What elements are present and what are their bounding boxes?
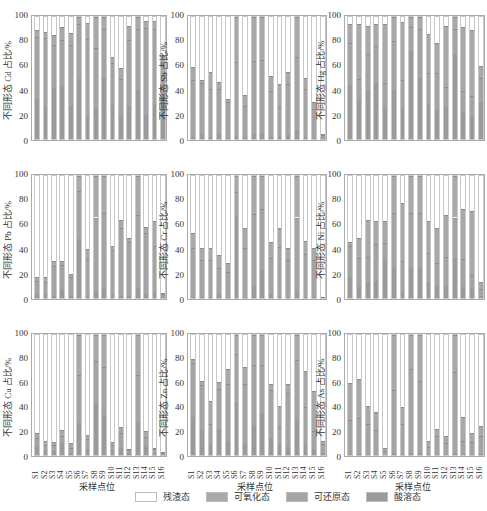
bar-segment [278, 228, 282, 246]
bar-s6 [234, 175, 240, 299]
bar-s9 [417, 175, 423, 299]
bar-segment [243, 297, 247, 298]
bar-s12 [285, 175, 291, 299]
bar-segment [235, 17, 239, 62]
bar-segment [191, 233, 195, 248]
bar-segment [102, 288, 106, 298]
bar-s13 [294, 175, 300, 299]
bar-segment [217, 268, 221, 295]
bar-segment [366, 454, 370, 455]
bar-s1 [34, 175, 40, 299]
bar-segment [252, 425, 256, 455]
bar-segment [144, 115, 148, 139]
bar-s13 [452, 175, 458, 299]
bar-segment [191, 80, 195, 136]
bar-segment [444, 454, 448, 455]
bar-s2 [356, 334, 362, 456]
y-tick-label: 100 [321, 10, 341, 20]
bar-segment [374, 454, 378, 455]
bar-segment [295, 57, 299, 130]
bar-segment [235, 354, 239, 402]
bar-s8 [408, 16, 414, 140]
bar-segment [127, 450, 131, 452]
bar-s9 [259, 175, 265, 299]
bar-segment [453, 335, 457, 372]
bar-s8 [408, 175, 414, 299]
y-tick-label: 0 [8, 136, 28, 146]
bar-s9 [101, 334, 107, 456]
bar-s10 [110, 16, 116, 140]
y-tick-label: 0 [164, 295, 184, 305]
x-tick-label: S4 [213, 471, 222, 479]
bar-s6 [234, 16, 240, 140]
bar-segment [86, 23, 90, 39]
bar-s14 [303, 175, 309, 299]
bar-segment [357, 79, 361, 100]
bar-s11 [434, 334, 440, 456]
bar-segment [374, 221, 378, 244]
plot-area-cd [31, 15, 167, 141]
bar-segment [374, 46, 378, 83]
bar-segment [427, 221, 431, 253]
bar-segment [383, 107, 387, 139]
y-tick-label: 100 [8, 169, 28, 179]
bar-segment [243, 444, 247, 455]
bar-segment [357, 100, 361, 139]
bar-s11 [434, 175, 440, 299]
legend-label: 可还原态 [314, 490, 350, 503]
bar-segment [470, 454, 474, 455]
bar-segment [102, 335, 106, 367]
bar-segment [226, 297, 230, 298]
bar-segment [111, 250, 115, 294]
bar-segment [409, 453, 413, 455]
bar-segment [374, 24, 378, 46]
x-tick-label: S1 [187, 471, 196, 479]
bar-segment [119, 296, 123, 298]
bar-segment [52, 266, 56, 295]
bar-segment [127, 26, 131, 41]
bar-s5 [382, 16, 388, 140]
bar-s3 [365, 16, 371, 140]
bar-segment [461, 259, 465, 287]
bar-s12 [443, 175, 449, 299]
bar-segment [444, 87, 448, 108]
bar-s9 [101, 175, 107, 299]
bar-segment [435, 429, 439, 436]
bar-segment [235, 192, 239, 216]
x-tick-label: S16 [317, 467, 326, 479]
bar-segment [444, 26, 448, 87]
bar-segment [111, 442, 115, 446]
bar-segment [60, 261, 64, 265]
bar-segment [252, 214, 256, 287]
bar-segment [217, 389, 221, 429]
bar-s3 [51, 16, 57, 140]
bar-segment [321, 441, 325, 445]
x-tick-label: S10 [265, 467, 274, 479]
bar-segment [243, 106, 247, 137]
bar-segment [209, 89, 213, 137]
bar-segment [260, 176, 264, 209]
bar-segment [278, 247, 282, 296]
bar-segment [304, 297, 308, 298]
bar-s5 [68, 334, 74, 456]
bar-segment [235, 176, 239, 192]
bar-segment [461, 417, 465, 441]
bar-s11 [434, 16, 440, 140]
bar-s3 [208, 334, 214, 456]
bar-segment [453, 176, 457, 217]
bar-segment [35, 294, 39, 298]
bar-s13 [135, 16, 141, 140]
bar-segment [278, 444, 282, 455]
bar-s1 [34, 334, 40, 456]
bar-segment [409, 17, 413, 27]
bar-segment [260, 270, 264, 298]
bar-segment [366, 90, 370, 139]
bar-s8 [251, 175, 257, 299]
bar-segment [286, 447, 290, 455]
bar-s12 [443, 334, 449, 456]
bar-segment [69, 106, 73, 139]
bar-segment [392, 268, 396, 299]
bar-segment [226, 441, 230, 455]
bar-s7 [400, 16, 406, 140]
bar-segment [461, 91, 465, 112]
